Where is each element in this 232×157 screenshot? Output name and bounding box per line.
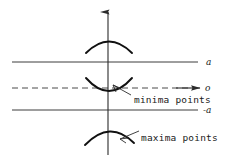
label-minima-points: minima points <box>134 94 211 105</box>
diagram-canvas: a o -a minima points maxima points <box>0 0 232 157</box>
label-level-a: a <box>206 57 211 67</box>
label-maxima-points: maxima points <box>141 132 218 143</box>
maxima-leader-arrowhead-icon <box>120 138 128 143</box>
upper-arc-curve <box>86 42 132 54</box>
minima-arc-curve <box>86 78 132 91</box>
maxima-minima-diagram: a o -a minima points maxima points <box>0 0 232 157</box>
label-level-neg-a: -a <box>203 105 211 115</box>
label-level-o: o <box>205 83 211 93</box>
